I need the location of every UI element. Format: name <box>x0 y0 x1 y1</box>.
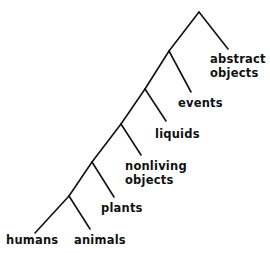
label-abstract-objects: abstract objects <box>210 52 266 80</box>
label-line: abstract <box>210 52 266 66</box>
label-animals: animals <box>74 233 126 247</box>
tree-edge <box>169 12 199 51</box>
tree-edge <box>92 162 114 197</box>
label-liquids: liquids <box>155 127 200 141</box>
label-events: events <box>178 96 223 110</box>
label-line: events <box>178 96 223 110</box>
label-plants: plants <box>101 201 143 215</box>
tree-edge <box>199 12 228 49</box>
tree-edge <box>169 51 191 92</box>
label-line: objects <box>125 173 187 187</box>
label-line: animals <box>74 233 126 247</box>
label-line: humans <box>6 233 58 247</box>
tree-edge <box>145 89 166 121</box>
tree-edge <box>69 162 92 196</box>
label-line: nonliving <box>125 159 187 173</box>
label-nonliving-objects: nonliving objects <box>125 159 187 187</box>
label-line: liquids <box>155 127 200 141</box>
tree-edge <box>35 196 69 233</box>
label-line: objects <box>210 66 266 80</box>
label-line: plants <box>101 201 143 215</box>
tree-edge <box>69 196 90 229</box>
label-humans: humans <box>6 233 58 247</box>
tree-edge <box>121 124 141 155</box>
taxonomy-tree <box>0 0 270 253</box>
tree-edge <box>92 124 121 162</box>
tree-edge <box>121 89 145 124</box>
tree-edge <box>145 51 169 89</box>
